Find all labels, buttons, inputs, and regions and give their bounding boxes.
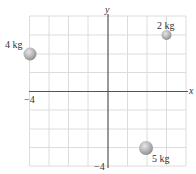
y-axis-label: y <box>104 4 110 15</box>
mass-2kg: 2 kg <box>157 20 175 40</box>
mass-label: 5 kg <box>152 153 170 164</box>
mass-5kg: 5 kg <box>139 141 170 164</box>
mass-label: 4 kg <box>5 39 23 50</box>
x-axis-label: x <box>188 85 194 96</box>
y-min-tick-label: −4 <box>94 161 105 172</box>
coordinate-diagram: x y −4 −4 4 kg 2 kg 5 kg <box>0 0 196 174</box>
ball-icon <box>162 30 172 40</box>
ball-icon <box>24 48 37 61</box>
x-min-tick-label: −4 <box>24 94 35 105</box>
mass-4kg: 4 kg <box>5 39 37 61</box>
mass-label: 2 kg <box>157 20 175 31</box>
ball-icon <box>139 141 153 155</box>
